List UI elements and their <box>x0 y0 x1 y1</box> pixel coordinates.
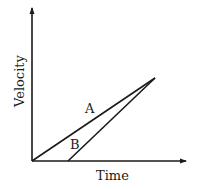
line-a-label: A <box>84 101 95 116</box>
x-axis-label: Time <box>96 168 129 183</box>
line-a <box>32 78 155 161</box>
line-b <box>68 78 155 161</box>
line-b-label: B <box>70 137 80 152</box>
velocity-time-diagram: A B Time Velocity <box>0 0 197 189</box>
y-axis-label: Velocity <box>12 54 27 108</box>
